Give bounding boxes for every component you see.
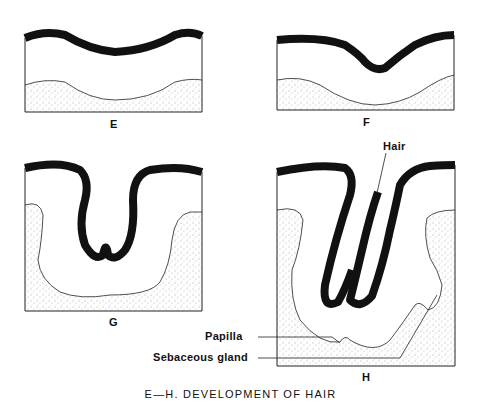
hair-leader bbox=[377, 153, 386, 193]
panel-label-f: F bbox=[363, 116, 370, 128]
dermis-stipple bbox=[25, 79, 202, 112]
papilla-label: Papilla bbox=[205, 330, 243, 342]
hair-label: Hair bbox=[383, 140, 406, 152]
dermis-stipple bbox=[277, 75, 454, 110]
panel-f bbox=[277, 35, 454, 110]
epidermis-band bbox=[277, 35, 454, 69]
hair-development-figure bbox=[0, 0, 481, 404]
panel-label-e: E bbox=[110, 118, 118, 130]
figure-caption: E—H. DEVELOPMENT OF HAIR bbox=[0, 388, 481, 400]
panel-g bbox=[25, 164, 202, 311]
panel-label-g: G bbox=[109, 316, 118, 328]
panel-h bbox=[258, 153, 455, 366]
sebaceous-gland-label: Sebaceous gland bbox=[153, 351, 248, 363]
panel-e bbox=[25, 33, 202, 112]
epidermis-band bbox=[25, 33, 202, 52]
panel-label-h: H bbox=[362, 371, 370, 383]
